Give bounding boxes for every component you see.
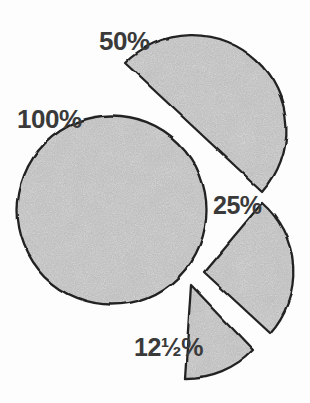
label-100-percent: 100% [17,106,82,132]
label-50-percent: 50% [99,28,150,54]
label-25-percent: 25% [213,193,262,218]
label-12half-percent: 12½% [134,335,203,360]
circle-fractions-diagram: 100% 50% 25% 12½% [0,0,310,403]
